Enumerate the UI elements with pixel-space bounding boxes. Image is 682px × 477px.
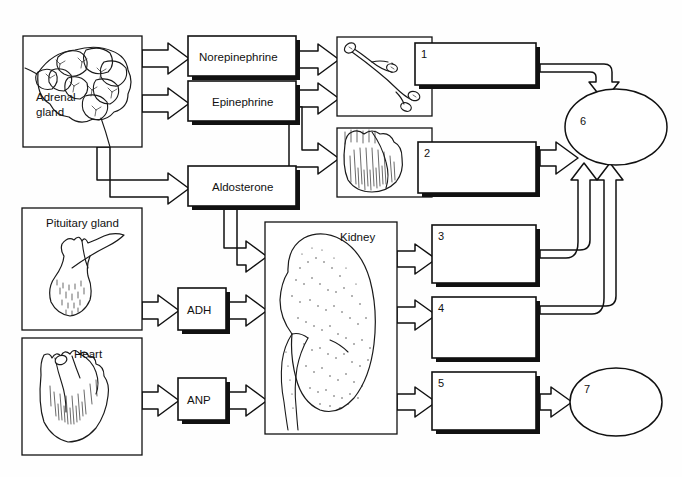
answer-number-7: 7 — [584, 383, 590, 395]
organ-label-adrenal-line1: Adrenal — [36, 91, 76, 103]
organ-label-adrenal-line2: gland — [36, 106, 64, 118]
answer-number-3: 3 — [438, 230, 444, 242]
answer-box-2[interactable]: 2 — [418, 142, 540, 197]
answer-ellipse-6[interactable]: 6 — [565, 89, 667, 165]
organ-panel-pituitary-gland: Pituitary gland — [22, 208, 142, 330]
answer-number-6: 6 — [580, 115, 586, 127]
organ-panel-adrenal-gland: Adrenal gland — [23, 36, 142, 147]
diagram-canvas: Adrenal gland Pituitary gland — [0, 0, 682, 477]
hormone-box-norepinephrine[interactable]: Norepinephrine — [188, 36, 300, 80]
hormone-box-epinephrine[interactable]: Epinephrine — [188, 81, 300, 125]
answer-number-4: 4 — [438, 302, 444, 314]
answer-box-4[interactable]: 4 — [432, 297, 540, 362]
answer-box-5[interactable]: 5 — [432, 372, 540, 434]
answer-number-2: 2 — [424, 147, 430, 159]
answer-number-5: 5 — [438, 377, 444, 389]
hormone-label-adh: ADH — [187, 304, 211, 316]
answer-ellipse-7[interactable]: 7 — [570, 368, 662, 436]
organ-panel-kidney: Kidney — [265, 222, 397, 434]
hormone-label-aldosterone: Aldosterone — [212, 181, 273, 193]
answer-box-1[interactable]: 1 — [415, 43, 540, 89]
organ-panel-heart: Heart — [22, 338, 142, 455]
hormone-label-epinephrine: Epinephrine — [212, 96, 273, 108]
hormone-label-norepinephrine: Norepinephrine — [199, 51, 278, 63]
organ-label-kidney: Kidney — [340, 231, 375, 243]
answer-box-3[interactable]: 3 — [432, 225, 540, 287]
hormone-label-anp: ANP — [187, 394, 211, 406]
hormone-box-anp[interactable]: ANP — [178, 378, 230, 424]
organ-label-heart: Heart — [74, 348, 103, 360]
answer-number-1: 1 — [421, 48, 427, 60]
hormone-box-adh[interactable]: ADH — [178, 288, 230, 334]
organ-label-pituitary: Pituitary gland — [46, 217, 119, 229]
hormone-box-aldosterone[interactable]: Aldosterone — [188, 166, 300, 210]
